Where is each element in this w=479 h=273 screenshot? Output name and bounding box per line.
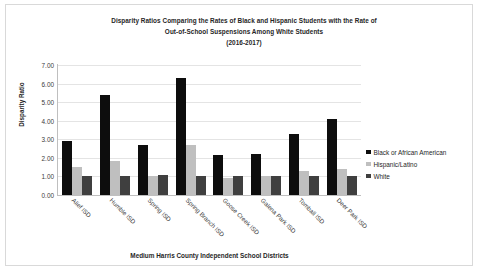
legend-label: Black or African American: [374, 149, 447, 156]
legend-item[interactable]: White: [366, 170, 476, 182]
bar: [82, 176, 92, 195]
bar-group: [134, 65, 172, 195]
bar: [223, 178, 233, 195]
y-axis-tick-label: 7.00: [24, 62, 54, 69]
bar-group: [172, 65, 210, 195]
bar: [271, 176, 281, 195]
bar: [186, 145, 196, 195]
bar-group: [247, 65, 285, 195]
x-axis-tick-cell: Spring Branch ISD: [172, 196, 210, 248]
chart-container: Disparity Ratios Comparing the Rates of …: [5, 4, 473, 266]
y-axis-tick-label: 2.00: [24, 154, 54, 161]
bar: [327, 119, 337, 195]
legend-swatch-icon: [366, 174, 371, 179]
bar: [110, 161, 120, 195]
x-axis-tick-labels: Alief ISDHumble ISDSpring ISDSpring Bran…: [58, 196, 361, 248]
chart-title-line-1: Disparity Ratios Comparing the Rates of …: [44, 15, 444, 26]
x-axis-tick-label: Deer Park ISD: [336, 197, 369, 230]
bar-group: [210, 65, 248, 195]
chart-title-line-2: Out-of-School Suspensions Among White St…: [44, 26, 444, 37]
bar: [289, 134, 299, 195]
x-axis-tick-cell: Tomball ISD: [285, 196, 323, 248]
bar: [196, 176, 206, 195]
bar: [72, 167, 82, 195]
bar: [299, 171, 309, 195]
x-axis-tick-label: Spring ISD: [146, 197, 172, 223]
legend-swatch-icon: [366, 162, 371, 167]
y-axis-tick-label: 3.00: [24, 136, 54, 143]
bar: [100, 95, 110, 195]
x-axis-tick-cell: Galena Park ISD: [247, 196, 285, 248]
y-axis-tick-label: 5.00: [24, 99, 54, 106]
y-axis-tick-label: 4.00: [24, 117, 54, 124]
x-axis-tick-label: Humble ISD: [108, 197, 137, 226]
x-axis-tick-label: Alief ISD: [71, 197, 93, 219]
bar: [347, 176, 357, 195]
bar: [261, 176, 271, 196]
x-axis-tick-cell: Alief ISD: [58, 196, 96, 248]
x-axis-title: Medium Harris County Independent School …: [58, 252, 361, 259]
legend-label: White: [374, 173, 390, 180]
y-axis-tick-label: 1.00: [24, 173, 54, 180]
bar: [176, 78, 186, 195]
x-axis-tick-label: Tomball ISD: [298, 197, 327, 226]
bar-series-layer: [58, 65, 361, 195]
legend-item[interactable]: Hispanic/Latino: [366, 158, 476, 170]
x-axis-tick-cell: Goose Creek ISD: [210, 196, 248, 248]
bar: [251, 154, 261, 195]
bar: [213, 155, 223, 195]
bar: [309, 176, 319, 195]
x-axis-tick-cell: Humble ISD: [96, 196, 134, 248]
y-axis-tick-labels: 7.006.005.004.003.002.001.000.00: [22, 65, 54, 195]
bar: [138, 145, 148, 195]
bar-group: [96, 65, 134, 195]
bar-group: [323, 65, 361, 195]
bar-group: [58, 65, 96, 195]
bar: [158, 175, 168, 195]
chart-title-line-3: (2016-2017): [44, 37, 444, 48]
x-axis-tick-cell: Deer Park ISD: [323, 196, 361, 248]
y-axis-tick-label: 0.00: [24, 192, 54, 199]
legend-item[interactable]: Black or African American: [366, 146, 476, 158]
bar: [233, 176, 243, 195]
bar: [62, 141, 72, 195]
bar-group: [285, 65, 323, 195]
legend-label: Hispanic/Latino: [374, 161, 418, 168]
legend-swatch-icon: [366, 150, 371, 155]
bar: [120, 176, 130, 195]
x-axis-tick-cell: Spring ISD: [134, 196, 172, 248]
y-axis-tick-label: 6.00: [24, 80, 54, 87]
bar: [337, 169, 347, 195]
chart-title: Disparity Ratios Comparing the Rates of …: [44, 15, 444, 48]
plot-area: [58, 65, 361, 195]
chart-legend: Black or African AmericanHispanic/Latino…: [366, 146, 476, 182]
bar: [148, 176, 158, 195]
